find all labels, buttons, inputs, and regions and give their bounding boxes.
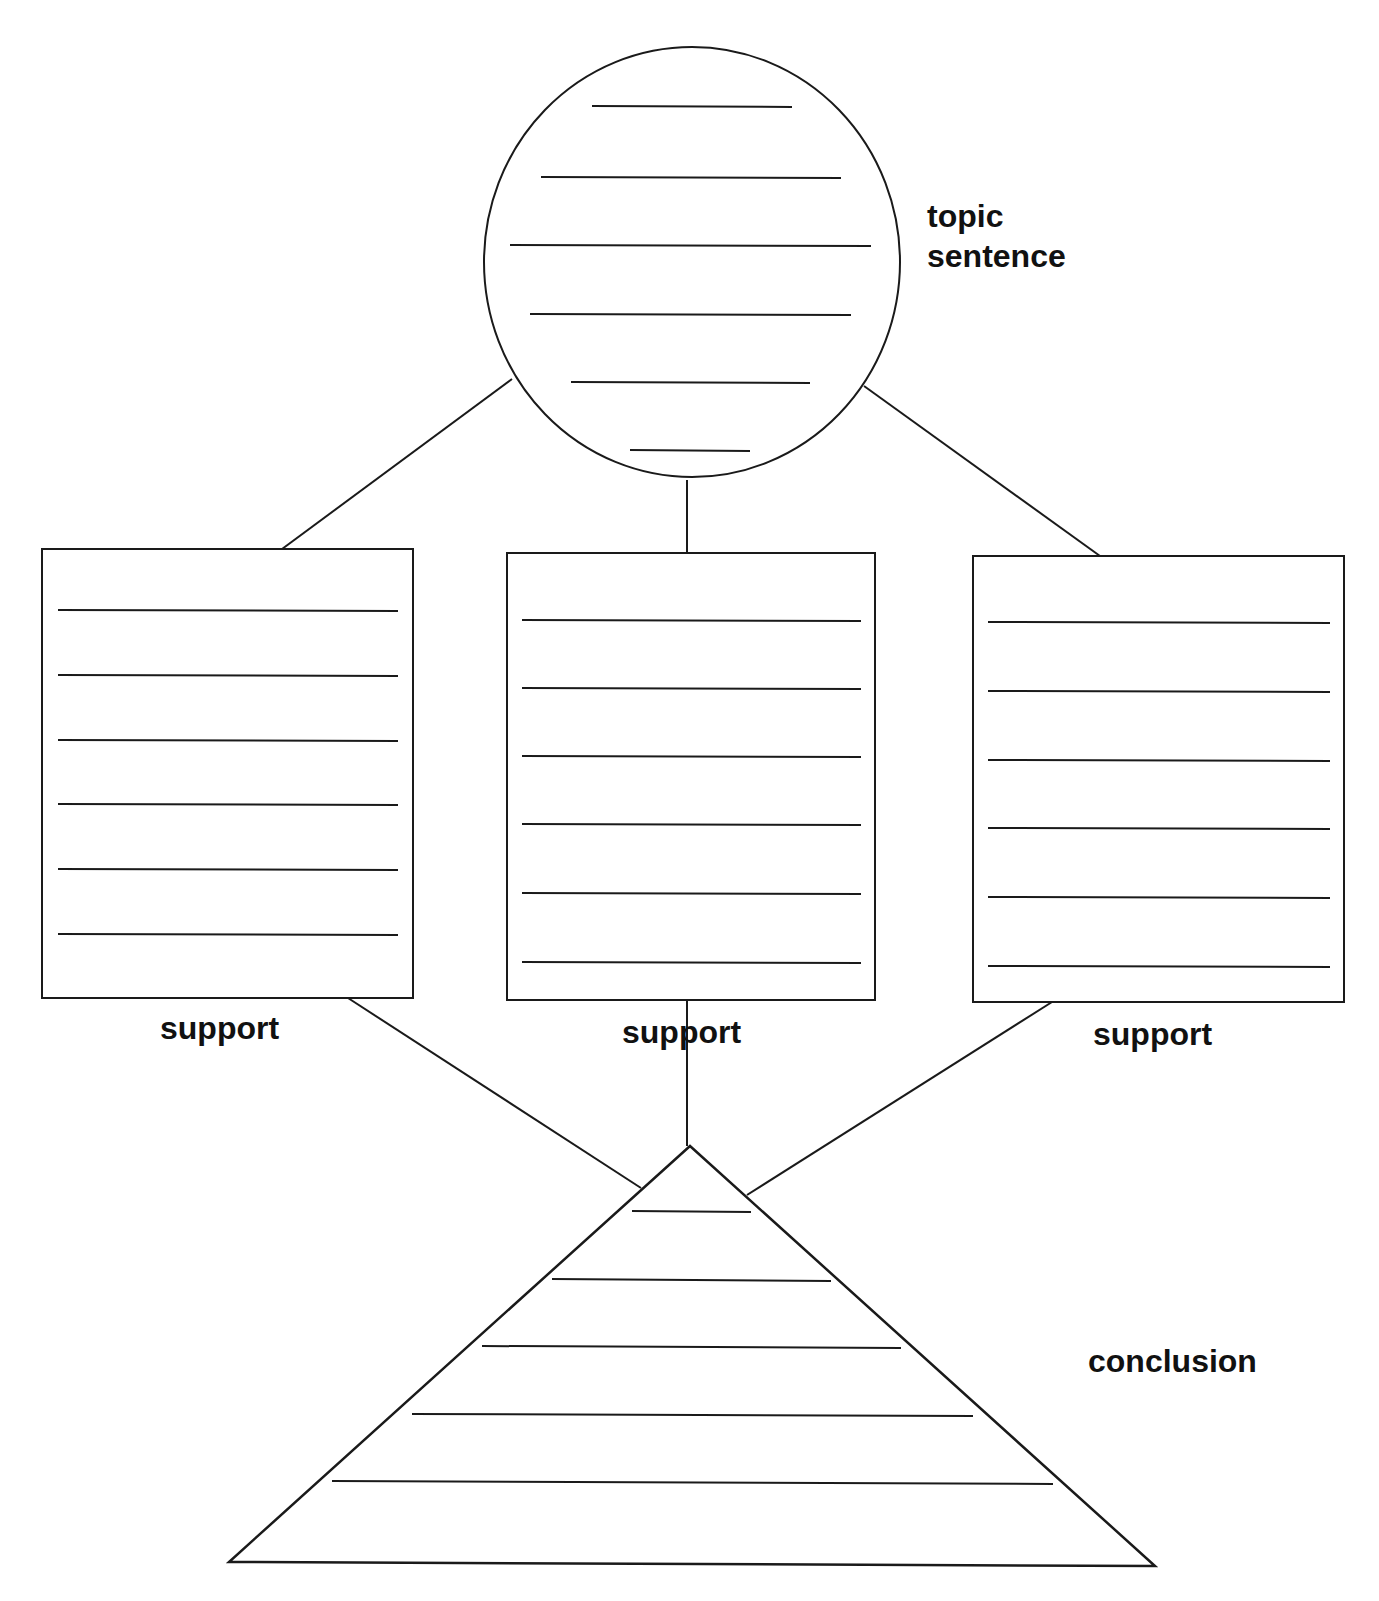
topic-sentence-label: topic sentence — [927, 196, 1066, 276]
topic-label-line-1: topic — [927, 196, 1066, 236]
support-label-1: support — [160, 1008, 279, 1048]
connector-topic-support-3 — [864, 386, 1100, 556]
topic-circle[interactable] — [484, 47, 900, 477]
support-box-1[interactable] — [42, 549, 413, 998]
support-label-3: support — [1093, 1014, 1212, 1054]
support-box-2[interactable] — [507, 553, 875, 1000]
support-box-3[interactable] — [973, 556, 1344, 1002]
connector-support-3-conclusion — [747, 1002, 1052, 1195]
connector-topic-support-1 — [278, 379, 512, 552]
connector-support-1-conclusion — [348, 998, 641, 1188]
conclusion-triangle[interactable] — [229, 1146, 1155, 1566]
support-label-2: support — [622, 1012, 741, 1052]
topic-label-line-2: sentence — [927, 236, 1066, 276]
conclusion-label: conclusion — [1088, 1341, 1257, 1381]
